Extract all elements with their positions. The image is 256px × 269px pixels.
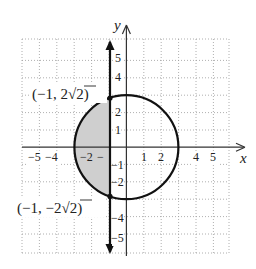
svg-text:4: 4: [193, 150, 199, 164]
svg-text:4: 4: [115, 70, 121, 84]
svg-text:5: 5: [210, 150, 216, 164]
point-label-bottom: (−1, −2√2): [16, 197, 106, 217]
svg-text:−2: −2: [111, 175, 124, 189]
point-bottom: [107, 194, 112, 199]
svg-text:1: 1: [141, 150, 147, 164]
grid: [22, 39, 229, 253]
coordinate-plane: y x −5 −4 −2 − 1 2 4 5 5 4 2 1 −1 −2 −4 …: [0, 0, 256, 269]
svg-text:1: 1: [115, 123, 121, 137]
y-tick-labels: 5 4 2 1 −1 −2 −4 −5: [111, 50, 124, 246]
svg-text:−2: −2: [80, 150, 93, 164]
svg-text:−5: −5: [111, 231, 124, 245]
svg-text:(−1, −2√2): (−1, −2√2): [17, 200, 82, 217]
svg-text:2: 2: [115, 105, 121, 119]
svg-text:−: −: [97, 150, 104, 164]
point-label-top: (−1, 2√2): [31, 83, 107, 103]
point-top: [107, 95, 112, 100]
svg-text:5: 5: [115, 51, 121, 65]
svg-text:(−1, 2√2): (−1, 2√2): [32, 86, 89, 103]
svg-text:2: 2: [158, 150, 164, 164]
svg-text:−4: −4: [45, 150, 58, 164]
x-axis-label: x: [239, 150, 247, 166]
svg-text:−1: −1: [111, 158, 124, 172]
y-axis-label: y: [112, 17, 121, 33]
svg-text:−5: −5: [28, 150, 41, 164]
svg-text:−4: −4: [111, 211, 124, 225]
